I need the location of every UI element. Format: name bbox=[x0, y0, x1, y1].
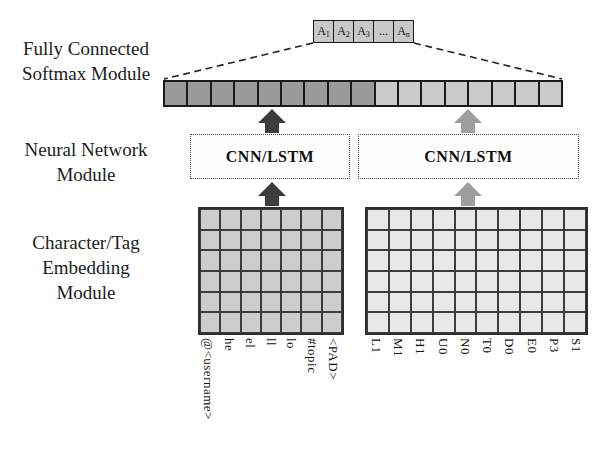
embedding-cell bbox=[411, 292, 433, 313]
concat-cell-left-branch bbox=[329, 82, 352, 105]
concat-vector bbox=[163, 80, 563, 107]
embedding-cell bbox=[520, 292, 542, 313]
embedding-cell bbox=[433, 230, 455, 251]
softmax-output-cell: ... bbox=[374, 21, 394, 42]
embedding-column-label: ll bbox=[265, 338, 278, 346]
embedding-column-label: H1 bbox=[414, 338, 427, 355]
embedding-column-label-slot: N0 bbox=[454, 338, 476, 378]
embedding-column-label: P3 bbox=[548, 338, 561, 353]
embedding-cell bbox=[200, 209, 220, 230]
embedding-cell bbox=[455, 209, 477, 230]
embedding-cell bbox=[301, 312, 321, 333]
embedding-cell bbox=[411, 250, 433, 271]
embedding-column-label: S1 bbox=[570, 338, 583, 353]
embedding-cell bbox=[476, 292, 498, 313]
embedding-cell bbox=[200, 230, 220, 251]
embedding-cell bbox=[322, 250, 342, 271]
embedding-cell bbox=[520, 250, 542, 271]
embedding-column-label: N0 bbox=[459, 338, 472, 355]
embedding-cell bbox=[542, 292, 564, 313]
embedding-cell bbox=[564, 312, 586, 333]
embedding-cell bbox=[241, 271, 261, 292]
embedding-column-label-slot: U0 bbox=[432, 338, 454, 378]
concat-cell-right-branch bbox=[469, 82, 492, 105]
concat-cell-right-branch bbox=[540, 82, 561, 105]
embedding-cell bbox=[476, 250, 498, 271]
embedding-column-label-slot: P3 bbox=[543, 338, 565, 378]
embedding-module-label-line1: Character/Tag bbox=[0, 230, 172, 255]
embedding-cell bbox=[281, 271, 301, 292]
embedding-grid-left bbox=[198, 207, 344, 335]
embedding-column-label-slot: S1 bbox=[566, 338, 588, 378]
concat-cell-right-branch bbox=[376, 82, 399, 105]
embedding-cell bbox=[200, 250, 220, 271]
embedding-cell bbox=[498, 230, 520, 251]
concat-cell-left-branch bbox=[165, 82, 188, 105]
embedding-column-label-slot: M1 bbox=[387, 338, 409, 378]
neural-network-module-label-line1: Neural Network bbox=[0, 137, 172, 162]
embedding-grid-left-labels: @<username>heellllo#topic<PAD> bbox=[198, 338, 344, 442]
embedding-cell bbox=[261, 209, 281, 230]
embedding-column-label: U0 bbox=[437, 338, 450, 355]
embedding-cell bbox=[455, 312, 477, 333]
embedding-column-label-slot: <PAD> bbox=[323, 338, 344, 442]
embedding-column-label: @<username> bbox=[202, 338, 215, 420]
embedding-cell bbox=[498, 250, 520, 271]
concat-cell-left-branch bbox=[235, 82, 258, 105]
embedding-column-label: #topic bbox=[306, 338, 319, 374]
cnn-lstm-box-right: CNN/LSTM bbox=[358, 134, 579, 179]
cnn-lstm-box-right-label: CNN/LSTM bbox=[424, 148, 512, 166]
embedding-column-label-slot: @<username> bbox=[198, 338, 219, 442]
softmax-output-cell: An bbox=[394, 21, 413, 42]
embedding-cell bbox=[241, 292, 261, 313]
embedding-cell bbox=[433, 209, 455, 230]
embedding-cell bbox=[220, 271, 240, 292]
softmax-module-label-line2: Softmax Module bbox=[0, 61, 172, 86]
embedding-cell bbox=[564, 209, 586, 230]
embedding-cell bbox=[520, 230, 542, 251]
embedding-column-label-slot: D0 bbox=[499, 338, 521, 378]
embedding-cell bbox=[564, 230, 586, 251]
embedding-cell bbox=[542, 230, 564, 251]
embedding-module-label-line3: Module bbox=[0, 280, 172, 305]
concat-cell-left-branch bbox=[282, 82, 305, 105]
embedding-column-label: he bbox=[223, 338, 236, 351]
embedding-column-label-slot: L1 bbox=[365, 338, 387, 378]
embedding-cell bbox=[433, 250, 455, 271]
embedding-cell bbox=[564, 271, 586, 292]
embedding-cell bbox=[261, 312, 281, 333]
concat-cell-right-branch bbox=[399, 82, 422, 105]
embedding-grid-right bbox=[365, 207, 588, 335]
embedding-cell bbox=[220, 292, 240, 313]
up-arrow-right-to-bar-icon bbox=[454, 109, 482, 133]
embedding-cell bbox=[200, 312, 220, 333]
embedding-column-label-slot: ll bbox=[261, 338, 282, 442]
embedding-cell bbox=[389, 250, 411, 271]
embedding-cell bbox=[322, 209, 342, 230]
embedding-cell bbox=[220, 312, 240, 333]
embedding-cell bbox=[389, 292, 411, 313]
embedding-cell bbox=[301, 271, 321, 292]
embedding-cell bbox=[367, 271, 389, 292]
embedding-cell bbox=[220, 230, 240, 251]
embedding-cell bbox=[433, 271, 455, 292]
concat-cell-left-branch bbox=[212, 82, 235, 105]
embedding-column-label: D0 bbox=[503, 338, 516, 355]
embedding-cell bbox=[261, 292, 281, 313]
cnn-lstm-box-left: CNN/LSTM bbox=[190, 134, 350, 179]
embedding-cell bbox=[200, 271, 220, 292]
embedding-cell bbox=[498, 292, 520, 313]
embedding-cell bbox=[520, 312, 542, 333]
concat-cell-right-branch bbox=[446, 82, 469, 105]
embedding-cell bbox=[542, 209, 564, 230]
embedding-cell bbox=[433, 292, 455, 313]
up-arrow-left-to-bar-icon bbox=[258, 109, 286, 133]
concat-cell-right-branch bbox=[493, 82, 516, 105]
embedding-cell bbox=[498, 271, 520, 292]
embedding-column-label: T0 bbox=[481, 338, 494, 353]
projection-dash-left-line bbox=[164, 43, 313, 79]
architecture-diagram: Fully Connected Softmax Module Neural Ne… bbox=[0, 0, 597, 452]
embedding-cell bbox=[367, 292, 389, 313]
embedding-cell bbox=[367, 312, 389, 333]
embedding-grid-right-labels: L1M1H1U0N0T0D0E0P3S1 bbox=[365, 338, 588, 378]
